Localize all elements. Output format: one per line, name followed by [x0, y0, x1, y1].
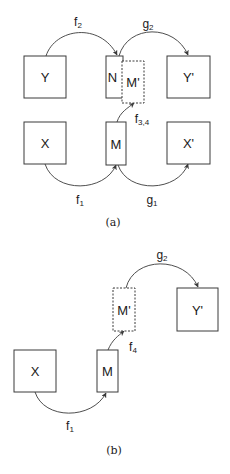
- node-label-Yp: Y': [192, 303, 203, 316]
- edge-label-f1: f1: [76, 194, 84, 208]
- edge-label-f1: f1: [66, 420, 74, 434]
- arrow-f4: [108, 331, 124, 350]
- edge-label-f2: f2: [74, 16, 82, 30]
- node-label-Y: Y: [41, 71, 50, 84]
- figure-canvas: f2g2f3,4f1g1YNM'Y'XMX'g2f4f1M'Y'XM (a) (…: [0, 0, 230, 474]
- edge-label-f34: f3,4: [135, 113, 149, 127]
- edge-label-g2: g2: [156, 249, 167, 263]
- caption-panel-a: (a): [105, 216, 120, 229]
- node-label-Mp: M': [126, 76, 139, 89]
- arrow-f1: [45, 164, 116, 186]
- arrow-f1: [35, 392, 106, 413]
- arrow-g1: [118, 164, 188, 186]
- arrow-g2: [126, 264, 198, 288]
- node-label-M: M: [102, 365, 113, 378]
- edge-label-f4: f4: [129, 341, 137, 355]
- node-label-Xp: X': [183, 137, 194, 150]
- panel-b: [14, 264, 218, 413]
- node-label-M: M: [111, 137, 122, 150]
- caption-panel-b: (b): [106, 444, 122, 457]
- node-label-Mp: M': [117, 303, 130, 316]
- arrow-f2: [46, 33, 117, 56]
- node-label-N: N: [108, 71, 117, 84]
- node-label-X: X: [31, 365, 40, 378]
- node-label-X: X: [41, 137, 50, 150]
- panel-a: [24, 32, 210, 186]
- arrow-f34: [117, 103, 134, 122]
- arrow-g2: [119, 32, 188, 56]
- edge-label-g1: g1: [146, 194, 157, 208]
- edge-label-g2: g2: [142, 18, 153, 32]
- node-label-Yp: Y': [183, 71, 194, 84]
